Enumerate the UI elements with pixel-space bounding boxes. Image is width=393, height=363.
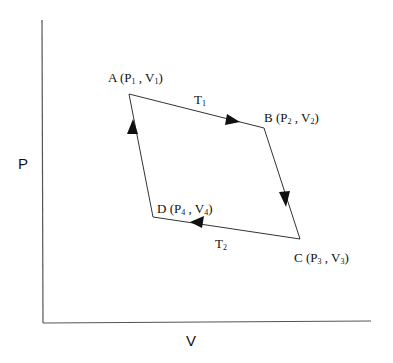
arrow-up-icon — [127, 119, 138, 134]
edge-b-c — [264, 128, 300, 239]
edge-label-t2: T2 — [215, 236, 227, 252]
point-d-label: D (P4 , V4) — [157, 201, 212, 217]
edge-c-d — [153, 217, 300, 239]
point-a-label: A (P1 , V1) — [108, 70, 163, 86]
x-axis — [43, 321, 371, 323]
edge-d-a — [129, 94, 153, 217]
x-axis-label: V — [186, 332, 196, 349]
y-axis-label: P — [18, 155, 28, 172]
arrow-right-icon — [225, 114, 240, 125]
point-c-label: C (P3 , V3) — [294, 250, 349, 266]
y-axis — [42, 20, 43, 323]
pv-cycle-diagram: P V A (P1 , V1) B (P2 , V2) C (P3 , V3) … — [0, 0, 393, 363]
edge-label-t1: T1 — [194, 92, 206, 108]
point-b-label: B (P2 , V2) — [264, 110, 319, 126]
arrow-left-icon — [190, 216, 204, 228]
